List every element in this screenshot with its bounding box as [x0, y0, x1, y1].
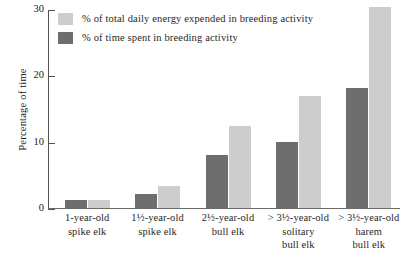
bar-energy-expended [158, 186, 180, 208]
y-tick-label: 20 [34, 69, 45, 80]
bar-energy-expended [88, 200, 110, 207]
y-tick-label: 30 [34, 3, 45, 14]
x-axis-label-line: spike elk [52, 225, 122, 239]
y-tick-mark [48, 209, 55, 210]
x-axis-label: 1½-year-oldspike elk [122, 211, 192, 238]
legend-swatch-time [58, 32, 73, 44]
x-axis-label-line: > 3½-year-old [263, 211, 333, 225]
bar-time-spent [135, 194, 157, 207]
bar-time-spent [65, 200, 87, 207]
legend-label-time: % of time spent in breeding activity [82, 32, 238, 43]
legend-label-energy: % of total daily energy expended in bree… [82, 13, 313, 24]
bar-energy-expended [299, 96, 321, 207]
bar-time-spent [346, 88, 368, 208]
y-axis-title: Percentage of time [17, 40, 28, 180]
x-axis-label-line: 1-year-old [52, 211, 122, 225]
y-tick-label: 10 [34, 136, 45, 147]
x-axis-label: 1-year-oldspike elk [52, 211, 122, 238]
x-axis-label-line: solitary [263, 225, 333, 239]
x-axis-label: > 3½-year-oldharembull elk [334, 211, 404, 252]
bar-chart: Percentage of time 3020100 % of total da… [0, 0, 407, 268]
bar-energy-expended [369, 7, 391, 208]
legend-swatch-energy [58, 13, 73, 25]
x-axis-label: > 3½-year-oldsolitarybull elk [263, 211, 333, 252]
x-axis-labels: 1-year-oldspike elk1½-year-oldspike elk2… [48, 211, 400, 267]
legend-item-energy: % of total daily energy expended in bree… [58, 10, 313, 27]
x-axis-label-line: harem [334, 225, 404, 239]
x-axis-label-line: > 3½-year-old [334, 211, 404, 225]
x-axis-line [48, 208, 400, 210]
x-axis-label-line: bull elk [193, 225, 263, 239]
bar-energy-expended [229, 126, 251, 208]
x-axis-label-line: bull elk [334, 238, 404, 252]
bar-time-spent [206, 155, 228, 208]
x-axis-label: 2½-year-oldbull elk [193, 211, 263, 238]
x-axis-label-line: bull elk [263, 238, 333, 252]
legend-item-time: % of time spent in breeding activity [58, 29, 313, 46]
bar-group [346, 8, 391, 208]
y-tick-label: 0 [39, 202, 44, 213]
bar-time-spent [276, 142, 298, 208]
x-axis-label-line: 2½-year-old [193, 211, 263, 225]
x-axis-label-line: 1½-year-old [122, 211, 192, 225]
chart-legend: % of total daily energy expended in bree… [58, 10, 313, 48]
x-axis-label-line: spike elk [122, 225, 192, 239]
y-tick-0: 0 [48, 209, 55, 210]
